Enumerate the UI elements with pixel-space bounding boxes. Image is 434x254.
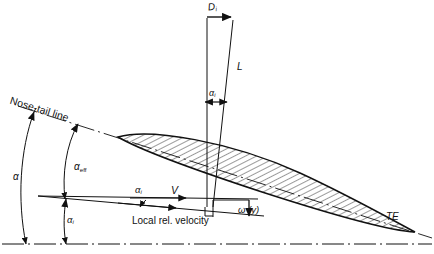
alpha-i-left-label: αi xyxy=(67,215,74,226)
alpha-i-upper-label: αi xyxy=(209,89,215,99)
induced-drag-label: Di xyxy=(207,2,217,14)
induced-drag-subscript: i xyxy=(215,5,217,12)
alpha-i-upper-subscript: i xyxy=(214,92,215,98)
lift-label: L xyxy=(237,62,243,72)
alpha-label: α xyxy=(13,172,19,182)
alpha-i-left-subscript: i xyxy=(72,219,73,225)
alpha-i-mid-label: αi xyxy=(135,185,142,196)
alpha-eff-label: αeff xyxy=(74,162,86,173)
diagram-canvas: Di L αi Nose-tail line α αeff αi αi V Lo… xyxy=(0,0,434,254)
trailing-edge-label: TE xyxy=(386,212,399,222)
airfoil-diagram-svg xyxy=(0,0,434,254)
alpha-i-mid-subscript: i xyxy=(140,189,141,195)
alpha-eff-subscript: eff xyxy=(80,166,87,173)
local-rel-velocity-label: Local rel. velocity xyxy=(132,216,209,226)
downwash-label: ω (y) xyxy=(238,205,259,215)
alpha-arc xyxy=(21,112,34,244)
local-velocity-arrow xyxy=(118,203,176,208)
velocity-label: V xyxy=(171,185,178,196)
alpha-i-left-arc xyxy=(64,199,66,244)
